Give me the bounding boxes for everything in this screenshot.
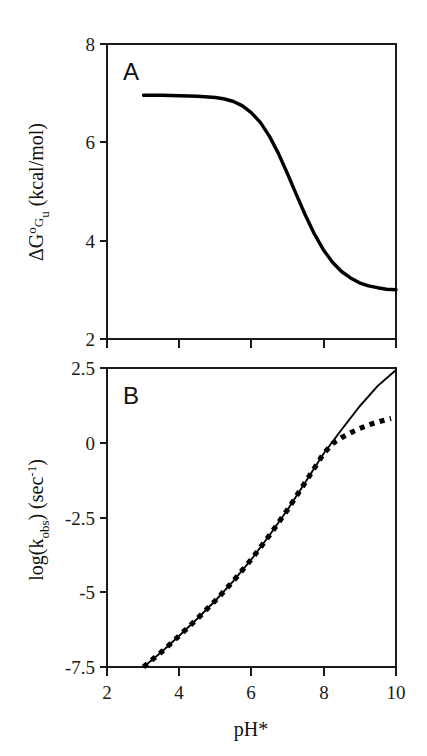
panel-b-curve-dotted — [144, 418, 392, 667]
panel-a-ylabel-main: ΔG — [25, 234, 47, 261]
panel-a-ytick-label-0: 8 — [86, 34, 96, 55]
panel-b-letter: B — [123, 382, 139, 409]
panel-a-ytick-label-3: 2 — [86, 329, 96, 350]
panel-b-curve-solid — [144, 370, 397, 667]
panel-a-x-ticks — [107, 339, 396, 348]
panel-b: 2.5 0 -2.5 -5 -7.5 2 4 6 8 10 B log(kobs… — [24, 358, 406, 741]
panel-b-ylabel-sub: obs — [37, 521, 52, 539]
panel-b-frame — [107, 368, 396, 667]
panel-b-ytick-label-4: -7.5 — [65, 657, 95, 678]
panel-b-xtick-label-2: 6 — [246, 682, 256, 703]
panel-b-ylabel-post: ) — [25, 459, 48, 466]
panel-b-xlabel: pH* — [234, 718, 268, 741]
panel-a-ylabel: ΔGoGu (kcal/mol) — [24, 123, 52, 261]
panel-b-x-ticks — [107, 667, 396, 676]
panel-b-xtick-label-1: 4 — [174, 682, 184, 703]
panel-b-ytick-label-0: 2.5 — [71, 358, 95, 379]
panel-b-ylabel: log(kobs) (sec-1) — [24, 459, 52, 581]
svg-text:log(kobs) (sec-1): log(kobs) (sec-1) — [24, 459, 52, 581]
panel-b-ylabel-mid: ) (sec — [25, 477, 48, 521]
panel-a: 8 6 4 2 A ΔGoGu (kcal/mol) — [24, 34, 396, 350]
panel-b-ytick-label-2: -2.5 — [65, 508, 95, 529]
panel-a-ytick-label-2: 4 — [86, 231, 96, 252]
panel-b-xtick-label-3: 8 — [319, 682, 329, 703]
panel-a-ytick-label-1: 6 — [86, 132, 96, 153]
panel-a-letter: A — [123, 58, 139, 85]
panel-b-xtick-label-4: 10 — [387, 682, 406, 703]
panel-b-ylabel-sup: -1 — [24, 466, 39, 477]
panel-a-y-ticks — [100, 44, 107, 339]
panel-b-ytick-label-3: -5 — [79, 582, 95, 603]
figure-canvas: 8 6 4 2 A ΔGoGu (kcal/mol) — [0, 0, 427, 756]
panel-a-curve-delta-g — [144, 95, 397, 290]
figure-container: 8 6 4 2 A ΔGoGu (kcal/mol) — [0, 0, 427, 756]
panel-a-frame — [107, 44, 396, 339]
panel-a-ylabel-units: (kcal/mol) — [25, 123, 48, 206]
panel-b-xtick-label-0: 2 — [102, 682, 112, 703]
panel-b-y-ticks — [100, 368, 107, 667]
panel-b-ylabel-pre: log(k — [25, 539, 48, 581]
svg-text:ΔGoGu (kcal/mol): ΔGoGu (kcal/mol) — [24, 123, 52, 261]
panel-b-ytick-label-1: 0 — [86, 433, 96, 454]
